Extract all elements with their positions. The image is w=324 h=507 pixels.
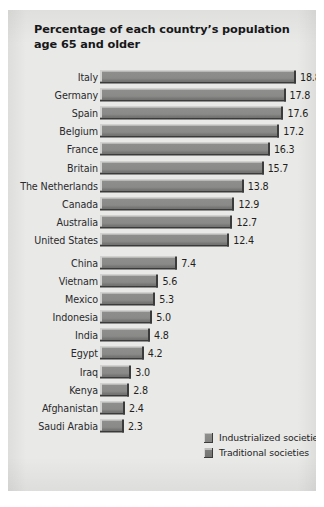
bar bbox=[100, 329, 150, 342]
bar-value-label: 5.0 bbox=[156, 312, 171, 323]
bar-row: Australia12.7 bbox=[8, 213, 316, 231]
bar-container: 4.2 bbox=[100, 347, 162, 360]
bar bbox=[100, 161, 264, 174]
chart-figure: Percentage of each country’s population … bbox=[8, 10, 316, 491]
bar-chart-plot: Italy18.8Germany17.8Spain17.6Belgium17.2… bbox=[8, 68, 316, 435]
bar-row: Kenya2.8 bbox=[8, 381, 316, 399]
bar-row: Mexico5.3 bbox=[8, 290, 316, 308]
bar-container: 17.2 bbox=[100, 125, 304, 138]
bar bbox=[100, 347, 144, 360]
bar-row: Iraq3.0 bbox=[8, 363, 316, 381]
bar-container: 5.6 bbox=[100, 275, 177, 288]
legend-swatch-icon bbox=[204, 433, 213, 443]
bar-value-label: 2.8 bbox=[133, 384, 148, 395]
bar-value-label: 13.8 bbox=[248, 180, 269, 191]
bar bbox=[100, 293, 155, 306]
bar-container: 18.8 bbox=[100, 71, 316, 84]
legend-item: Traditional societies bbox=[204, 445, 316, 460]
bar-container: 12.4 bbox=[100, 233, 254, 246]
bar-category-label: China bbox=[71, 257, 98, 268]
bar-category-label: Indonesia bbox=[53, 312, 99, 323]
bar-category-label: Britain bbox=[67, 162, 98, 173]
bar-row: Belgium17.2 bbox=[8, 122, 316, 140]
bar-container: 2.3 bbox=[100, 419, 143, 432]
bar-value-label: 2.3 bbox=[128, 420, 143, 431]
bar-container: 2.8 bbox=[100, 383, 148, 396]
bar-container: 17.6 bbox=[100, 107, 308, 120]
bar bbox=[100, 383, 129, 396]
bar-row: Afghanistan2.4 bbox=[8, 399, 316, 417]
bar-value-label: 5.6 bbox=[162, 276, 177, 287]
bar-row: France16.3 bbox=[8, 140, 316, 158]
bar-row: Italy18.8 bbox=[8, 68, 316, 86]
bar-value-label: 17.6 bbox=[287, 108, 308, 119]
bar bbox=[100, 233, 229, 246]
bar-row: India4.8 bbox=[8, 326, 316, 344]
legend-label: Traditional societies bbox=[219, 447, 309, 458]
bar-container: 5.0 bbox=[100, 311, 171, 324]
bar-category-label: Kenya bbox=[69, 384, 98, 395]
bar-category-label: Mexico bbox=[65, 294, 98, 305]
bar bbox=[100, 215, 232, 228]
bar-category-label: Saudi Arabia bbox=[38, 420, 98, 431]
bar-container: 3.0 bbox=[100, 365, 150, 378]
legend-item: Industrialized societies bbox=[204, 430, 316, 445]
bar bbox=[100, 71, 296, 84]
bar bbox=[100, 311, 152, 324]
bar-category-label: Egypt bbox=[71, 348, 98, 359]
bar-row: Vietnam5.6 bbox=[8, 272, 316, 290]
bar-category-label: Canada bbox=[62, 198, 98, 209]
bar-row: The Netherlands13.8 bbox=[8, 177, 316, 195]
bar bbox=[100, 125, 279, 138]
bar-container: 12.9 bbox=[100, 197, 259, 210]
bar-value-label: 7.4 bbox=[181, 257, 196, 268]
bar-container: 7.4 bbox=[100, 256, 196, 269]
bar-value-label: 5.3 bbox=[159, 294, 174, 305]
bar-row: United States12.4 bbox=[8, 231, 316, 249]
bar bbox=[100, 197, 234, 210]
bar-value-label: 4.8 bbox=[154, 330, 169, 341]
bar-container: 13.8 bbox=[100, 179, 268, 192]
bar bbox=[100, 89, 286, 102]
bar-category-label: Australia bbox=[56, 216, 98, 227]
bar-value-label: 15.7 bbox=[268, 162, 289, 173]
bar bbox=[100, 275, 158, 288]
bar-category-label: The Netherlands bbox=[20, 180, 98, 191]
bar-value-label: 12.9 bbox=[238, 198, 259, 209]
legend-label: Industrialized societies bbox=[219, 432, 316, 443]
chart-legend: Industrialized societiesTraditional soci… bbox=[204, 430, 316, 460]
bar-value-label: 17.2 bbox=[283, 126, 304, 137]
bar-category-label: Spain bbox=[72, 108, 98, 119]
bar-container: 4.8 bbox=[100, 329, 169, 342]
bar bbox=[100, 179, 244, 192]
bar-row: Canada12.9 bbox=[8, 195, 316, 213]
bar-container: 12.7 bbox=[100, 215, 257, 228]
bar-container: 17.8 bbox=[100, 89, 310, 102]
bar-value-label: 17.8 bbox=[290, 90, 311, 101]
bar-value-label: 16.3 bbox=[274, 144, 295, 155]
bar-row: Spain17.6 bbox=[8, 104, 316, 122]
bar-value-label: 2.4 bbox=[129, 402, 144, 413]
bar bbox=[100, 419, 124, 432]
bar-value-label: 4.2 bbox=[148, 348, 163, 359]
bar-row: China7.4 bbox=[8, 254, 316, 272]
bar bbox=[100, 107, 283, 120]
bar-value-label: 3.0 bbox=[135, 366, 150, 377]
bar bbox=[100, 365, 131, 378]
bar-category-label: India bbox=[75, 330, 98, 341]
bar bbox=[100, 256, 177, 269]
bar-category-label: Afghanistan bbox=[42, 402, 98, 413]
bar-value-label: 18.8 bbox=[300, 72, 316, 83]
bar-category-label: United States bbox=[34, 234, 98, 245]
bar-value-label: 12.4 bbox=[233, 234, 254, 245]
bar-row: Britain15.7 bbox=[8, 158, 316, 176]
bar-container: 15.7 bbox=[100, 161, 288, 174]
bar-container: 2.4 bbox=[100, 401, 144, 414]
bar-container: 5.3 bbox=[100, 293, 174, 306]
bar-row: Germany17.8 bbox=[8, 86, 316, 104]
bar-category-label: Vietnam bbox=[59, 276, 98, 287]
bar-category-label: Iraq bbox=[80, 366, 98, 377]
bar-container: 16.3 bbox=[100, 143, 294, 156]
bar bbox=[100, 401, 125, 414]
bar-row: Egypt4.2 bbox=[8, 344, 316, 362]
